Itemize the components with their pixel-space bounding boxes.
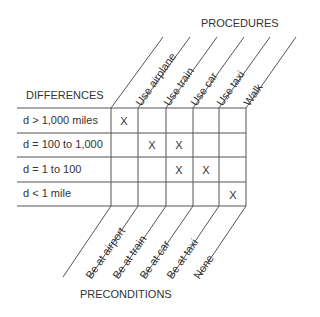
difference-row-label: d = 1 to 100	[23, 163, 81, 175]
difference-row-label: d = 100 to 1,000	[23, 138, 103, 150]
matrix-mark: X	[193, 164, 219, 176]
preconditions-title: PRECONDITIONS	[80, 288, 172, 300]
matrix-mark: X	[111, 115, 137, 127]
differences-title: DIFFERENCES	[26, 89, 104, 101]
matrix-mark: X	[220, 189, 246, 201]
matrix-mark: X	[139, 139, 165, 151]
matrix-mark: X	[166, 139, 192, 151]
matrix-mark: X	[166, 164, 192, 176]
procedures-title: PROCEDURES	[201, 17, 279, 29]
difference-row-label: d < 1 mile	[23, 187, 71, 199]
difference-row-label: d > 1,000 miles	[23, 114, 98, 126]
